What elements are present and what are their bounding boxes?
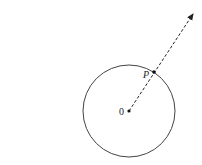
center-label: 0 bbox=[119, 106, 124, 117]
diagram-svg: 0 P bbox=[0, 0, 202, 165]
point-p bbox=[152, 70, 156, 74]
dashed-ray-arrow bbox=[129, 14, 193, 111]
point-p-label: P bbox=[142, 69, 149, 80]
center-point bbox=[127, 109, 130, 112]
diagram-canvas: 0 P bbox=[0, 0, 202, 165]
